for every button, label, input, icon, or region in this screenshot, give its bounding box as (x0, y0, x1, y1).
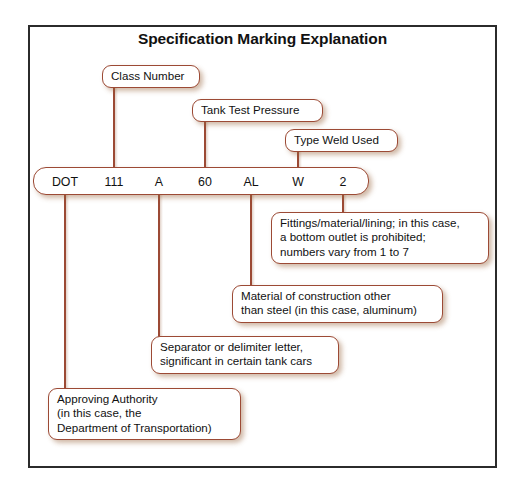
callout-tank-test-pressure: Tank Test Pressure (192, 99, 323, 122)
callout-fittings: Fittings/material/lining; in this case, … (271, 212, 489, 264)
connector-line-tank-test-pressure-above (204, 119, 206, 167)
callout-type-weld-used: Type Weld Used (285, 129, 398, 152)
connector-line-approving-authority-below (64, 195, 66, 390)
callout-class-number: Class Number (102, 65, 200, 88)
figure-canvas: Specification Marking Explanation Class … (0, 0, 518, 493)
specification-marking-bar: DOT111A60ALW2 (33, 167, 369, 195)
figure-title: Specification Marking Explanation (28, 30, 497, 48)
callout-approving-authority: Approving Authority (in this case, the D… (48, 388, 241, 440)
marking-segment-fittings: 2 (313, 168, 373, 196)
connector-line-separator-delimiter-below (158, 195, 160, 338)
callout-material-of-construction: Material of construction other than stee… (232, 285, 443, 323)
connector-line-class-number-above (113, 85, 115, 167)
connector-line-material-of-construction-below (250, 195, 252, 287)
callout-separator-delimiter: Separator or delimiter letter, significa… (151, 336, 339, 374)
